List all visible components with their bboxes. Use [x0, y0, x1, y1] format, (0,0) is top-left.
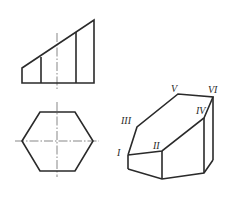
technical-drawing: I II III IV V VI: [0, 0, 237, 204]
label-III: III: [120, 115, 132, 126]
front-view-outline: [22, 20, 94, 83]
top-view: [15, 102, 99, 177]
inclined-face: [128, 94, 213, 155]
label-II: II: [152, 140, 160, 151]
label-I: I: [116, 147, 121, 158]
front-view: [22, 20, 94, 90]
base-edges: [128, 160, 213, 179]
top-view-hexagon: [22, 112, 93, 171]
axonometric-view: I II III IV V VI: [116, 83, 218, 179]
label-VI: VI: [208, 84, 218, 95]
label-V: V: [171, 83, 179, 94]
